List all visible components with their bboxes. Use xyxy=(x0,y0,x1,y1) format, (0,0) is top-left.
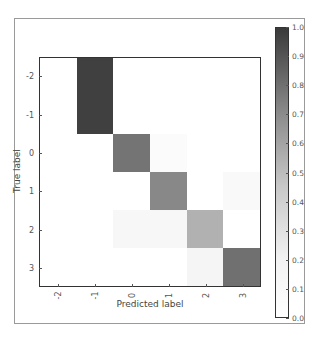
colorbar-tick-label: 0.3 xyxy=(292,226,304,235)
colorbar-tick-label: 0.6 xyxy=(292,139,304,148)
colorbar-tick-label: 0.5 xyxy=(292,168,304,177)
colorbar-tick-mark xyxy=(286,85,289,86)
y-axis-label: True label xyxy=(12,136,22,206)
y-tick-mark xyxy=(39,191,42,192)
y-tick-mark xyxy=(39,153,42,154)
heatmap-cell xyxy=(223,58,260,96)
heatmap-cell xyxy=(150,58,187,96)
heatmap-cell xyxy=(113,58,150,96)
heatmap-cell xyxy=(150,248,187,286)
heatmap-cell xyxy=(113,134,150,172)
heatmap-cell xyxy=(77,134,114,172)
heatmap-cell xyxy=(150,210,187,248)
heatmap-cell xyxy=(187,58,224,96)
y-tick-label: -1 xyxy=(20,110,34,119)
y-tick-mark xyxy=(39,230,42,231)
heatmap-cell xyxy=(113,96,150,134)
y-tick-mark xyxy=(39,268,42,269)
heatmap-cell xyxy=(40,58,77,96)
heatmap-grid xyxy=(40,58,260,286)
heatmap-cell xyxy=(77,96,114,134)
y-tick-mark xyxy=(39,115,42,116)
colorbar-tick-label: 0.4 xyxy=(292,197,304,206)
heatmap-cell xyxy=(223,96,260,134)
heatmap-cell xyxy=(150,172,187,210)
colorbar-tick-label: 0.0 xyxy=(292,314,304,323)
x-tick-mark xyxy=(206,284,207,287)
heatmap-cell xyxy=(187,210,224,248)
colorbar-tick-mark xyxy=(286,318,289,319)
heatmap-cell xyxy=(113,172,150,210)
heatmap-cell xyxy=(150,96,187,134)
y-tick-label: 3 xyxy=(20,263,34,272)
heatmap-cell xyxy=(223,134,260,172)
colorbar-tick-label: 1.0 xyxy=(292,23,304,32)
heatmap-cell xyxy=(77,248,114,286)
heatmap-cell xyxy=(187,172,224,210)
colorbar-tick-mark xyxy=(286,27,289,28)
x-tick-mark xyxy=(58,284,59,287)
colorbar-tick-mark xyxy=(286,202,289,203)
heatmap-cell xyxy=(77,210,114,248)
x-tick-mark xyxy=(243,284,244,287)
colorbar-tick-mark xyxy=(286,143,289,144)
heatmap-cell xyxy=(40,134,77,172)
heatmap-cell xyxy=(187,134,224,172)
heatmap-cell xyxy=(77,172,114,210)
heatmap-cell xyxy=(40,96,77,134)
heatmap-cell xyxy=(223,172,260,210)
y-tick-label: -2 xyxy=(20,72,34,81)
y-tick-mark xyxy=(39,76,42,77)
x-tick-mark xyxy=(132,284,133,287)
colorbar-tick-label: 0.8 xyxy=(292,81,304,90)
colorbar-tick-label: 0.2 xyxy=(292,255,304,264)
heatmap-cell xyxy=(150,134,187,172)
heatmap-cell xyxy=(77,58,114,96)
colorbar-tick-mark xyxy=(286,56,289,57)
x-axis-label: Predicted label xyxy=(39,299,261,309)
heatmap-cell xyxy=(113,210,150,248)
y-tick-label: 1 xyxy=(20,187,34,196)
colorbar-tick-mark xyxy=(286,114,289,115)
y-tick-label: 0 xyxy=(20,148,34,157)
colorbar-tick-mark xyxy=(286,260,289,261)
heatmap-plot-area xyxy=(39,57,261,287)
x-tick-mark xyxy=(169,284,170,287)
heatmap-cell xyxy=(187,248,224,286)
colorbar-tick-mark xyxy=(286,173,289,174)
colorbar-tick-label: 0.7 xyxy=(292,110,304,119)
colorbar-tick-label: 0.1 xyxy=(292,284,304,293)
heatmap-cell xyxy=(40,248,77,286)
x-tick-mark xyxy=(95,284,96,287)
heatmap-cell xyxy=(40,172,77,210)
heatmap-cell xyxy=(223,248,260,286)
colorbar-tick-label: 0.9 xyxy=(292,52,304,61)
y-tick-label: 2 xyxy=(20,225,34,234)
heatmap-cell xyxy=(113,248,150,286)
colorbar-tick-mark xyxy=(286,231,289,232)
heatmap-cell xyxy=(40,210,77,248)
heatmap-cell xyxy=(187,96,224,134)
heatmap-cell xyxy=(223,210,260,248)
colorbar-tick-mark xyxy=(286,289,289,290)
